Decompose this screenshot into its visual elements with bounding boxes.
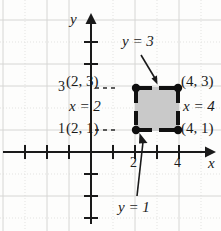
shaded-region: [135, 87, 179, 131]
coordinate-plane-svg: [0, 0, 221, 231]
corner-label-top-right: (4, 3): [181, 74, 214, 89]
x-axis-label: x: [208, 156, 215, 171]
major-grid: [0, 0, 221, 231]
boundary-label-top: y = 3: [122, 34, 154, 49]
y-axis-label: y: [70, 12, 77, 27]
callout-arrow-y3: [141, 55, 156, 80]
boundary-label-bottom: y = 1: [118, 200, 150, 215]
point-2-1: [132, 126, 140, 134]
corner-label-bottom-right: (4, 1): [181, 121, 214, 136]
corner-label-top-left: (2, 3): [66, 74, 99, 89]
callout-arrowhead-y1: [139, 133, 148, 144]
boundary-label-right: x = 4: [183, 99, 215, 114]
x-tick-label-4: 4: [174, 156, 181, 170]
y-tick-label-1: 1: [58, 122, 65, 136]
y-tick-label-3: 3: [58, 80, 65, 94]
callout-arrow-y1: [137, 142, 143, 196]
point-2-3: [132, 84, 140, 92]
x-tick-label-2: 2: [130, 156, 137, 170]
coordinate-plane-figure: y x 3 1 2 4 (2, 3) (4, 3) (2, 1) (4, 1) …: [0, 0, 221, 231]
boundary-label-left: x = 2: [69, 99, 101, 114]
corner-label-bottom-left: (2, 1): [66, 121, 99, 136]
y-axis-arrowhead: [86, 13, 97, 24]
